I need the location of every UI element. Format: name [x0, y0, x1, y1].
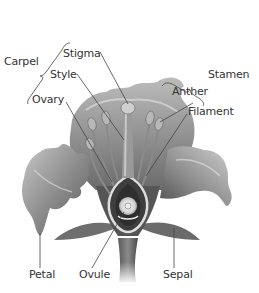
ovule: [119, 197, 137, 215]
stem: [112, 238, 144, 284]
label-stamen: Stamen: [208, 69, 249, 80]
flower-illustration: [0, 0, 259, 293]
label-ovule: Ovule: [79, 269, 110, 280]
label-style: Style: [50, 69, 77, 80]
petal-left: [22, 144, 89, 236]
label-carpel: Carpel: [4, 56, 39, 67]
label-stigma: Stigma: [63, 48, 101, 59]
label-filament: Filament: [188, 106, 234, 117]
label-sepal: Sepal: [163, 269, 193, 280]
label-anther: Anther: [172, 86, 208, 97]
petal-right: [160, 146, 232, 206]
flower-diagram: Carpel Stigma Style Ovary Stamen Anther …: [0, 0, 259, 293]
label-ovary: Ovary: [32, 94, 64, 105]
label-petal: Petal: [29, 269, 55, 280]
